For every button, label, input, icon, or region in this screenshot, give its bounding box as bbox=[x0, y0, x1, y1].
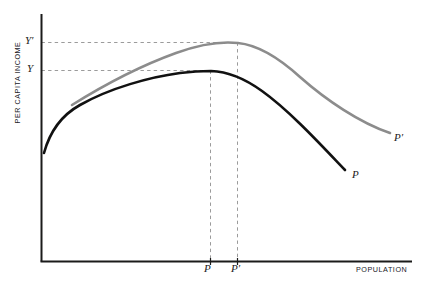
curve-label-p: P bbox=[352, 168, 359, 180]
x-tick-label-p-bar-prime: P′ bbox=[231, 261, 240, 275]
x-tick-label-p-bar-prime-mark: ′ bbox=[238, 262, 240, 274]
chart-figure: PER CAPITA INCOME POPULATION Y′ Y P P′ P… bbox=[0, 0, 429, 288]
x-tick-label-p-bar: P bbox=[204, 261, 211, 275]
y-tick-label-y-prime: Y′ bbox=[25, 34, 34, 46]
curve-label-p-prime: P′ bbox=[394, 131, 403, 143]
y-tick-label-y: Y bbox=[27, 62, 33, 74]
x-axis-title: POPULATION bbox=[356, 265, 407, 274]
x-tick-label-p-bar-prime-text: P bbox=[231, 261, 238, 275]
chart-plot-area bbox=[0, 0, 429, 288]
y-axis-title: PER CAPITA INCOME bbox=[13, 33, 22, 133]
x-tick-label-p-bar-text: P bbox=[204, 261, 211, 275]
